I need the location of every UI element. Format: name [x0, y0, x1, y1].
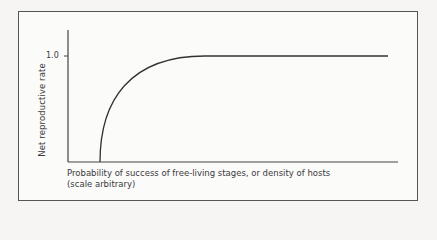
x-axis-label-line2: (scale arbitrary) [67, 179, 330, 190]
response-curve [100, 56, 388, 162]
x-axis-label-line1: Probability of success of free-living st… [67, 168, 330, 179]
y-tick-label: 1.0 [46, 51, 59, 60]
x-axis-label: Probability of success of free-living st… [67, 168, 330, 190]
y-axis-label: Net reproductive rate [37, 63, 47, 157]
